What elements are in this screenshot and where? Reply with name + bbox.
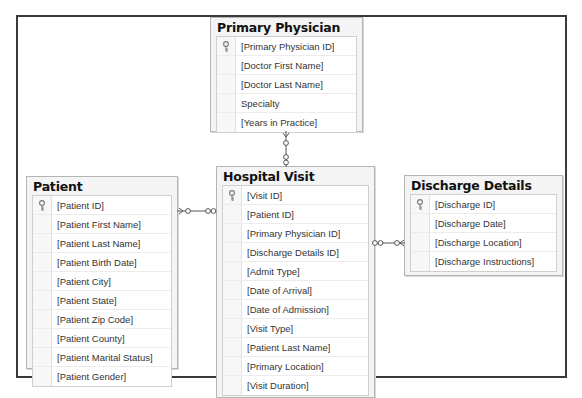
column-name: [Patient Last Name]: [242, 342, 330, 353]
column-list: [Discharge ID][Discharge Date][Discharge…: [410, 194, 557, 272]
table-column-row[interactable]: [Primary Physician ID]: [217, 37, 356, 56]
column-list: [Primary Physician ID][Doctor First Name…: [216, 36, 357, 133]
table-column-row[interactable]: [Discharge Date]: [411, 214, 556, 233]
column-name: [Visit ID]: [242, 190, 282, 201]
table-column-row[interactable]: [Discharge ID]: [411, 195, 556, 214]
primary-key-icon: [228, 190, 236, 201]
row-selector[interactable]: [411, 233, 430, 251]
table-column-row[interactable]: [Discharge Location]: [411, 233, 556, 252]
column-name: [Patient County]: [52, 333, 125, 344]
row-selector[interactable]: [33, 310, 52, 328]
row-selector[interactable]: [223, 319, 242, 337]
table-title: Primary Physician: [216, 21, 357, 36]
primary-key-icon: [416, 199, 424, 210]
row-selector[interactable]: [217, 37, 236, 55]
row-selector[interactable]: [33, 329, 52, 347]
relationship-physician-visit[interactable]: [280, 131, 292, 169]
table-column-row[interactable]: Specialty: [217, 94, 356, 113]
table-column-row[interactable]: [Primary Location]: [223, 357, 368, 376]
row-selector[interactable]: [33, 367, 52, 386]
table-column-row[interactable]: [Doctor Last Name]: [217, 75, 356, 94]
column-list: [Visit ID][Patient ID][Primary Physician…: [222, 185, 369, 396]
table-column-row[interactable]: [Patient Zip Code]: [33, 310, 171, 329]
table-discharge-details[interactable]: Discharge Details [Discharge ID][Dischar…: [404, 175, 563, 276]
column-name: [Discharge ID]: [430, 199, 495, 210]
column-name: [Date of Admission]: [242, 304, 329, 315]
table-column-row[interactable]: [Visit ID]: [223, 186, 368, 205]
table-column-row[interactable]: [Date of Arrival]: [223, 281, 368, 300]
column-name: [Visit Type]: [242, 323, 293, 334]
column-name: [Patient Last Name]: [52, 238, 140, 249]
row-selector[interactable]: [33, 291, 52, 309]
table-column-row[interactable]: [Patient ID]: [33, 196, 171, 215]
table-patient[interactable]: Patient [Patient ID][Patient First Name]…: [26, 176, 178, 369]
table-column-row[interactable]: [Visit Type]: [223, 319, 368, 338]
column-name: [Doctor Last Name]: [236, 79, 323, 90]
row-selector[interactable]: [223, 224, 242, 242]
table-column-row[interactable]: [Patient City]: [33, 272, 171, 291]
column-name: [Discharge Date]: [430, 218, 506, 229]
row-selector[interactable]: [33, 272, 52, 290]
row-selector[interactable]: [33, 253, 52, 271]
row-selector[interactable]: [223, 186, 242, 204]
row-selector[interactable]: [217, 56, 236, 74]
row-selector[interactable]: [223, 205, 242, 223]
relationship-patient-visit[interactable]: [177, 205, 217, 217]
table-title: Discharge Details: [410, 179, 557, 194]
row-selector[interactable]: [33, 234, 52, 252]
row-selector[interactable]: [223, 357, 242, 375]
row-selector[interactable]: [223, 262, 242, 280]
row-selector[interactable]: [33, 215, 52, 233]
row-selector[interactable]: [223, 243, 242, 261]
table-column-row[interactable]: [Years in Practice]: [217, 113, 356, 132]
primary-key-icon: [222, 41, 230, 52]
column-list: [Patient ID][Patient First Name][Patient…: [32, 195, 172, 387]
table-title: Hospital Visit: [222, 170, 369, 185]
table-primary-physician[interactable]: Primary Physician [Primary Physician ID]…: [210, 17, 363, 132]
relationship-discharge-visit[interactable]: [372, 237, 406, 249]
table-column-row[interactable]: [Patient ID]: [223, 205, 368, 224]
column-name: [Discharge Details ID]: [242, 247, 339, 258]
column-name: [Patient Birth Date]: [52, 257, 137, 268]
column-name: [Admit Type]: [242, 266, 300, 277]
table-column-row[interactable]: [Visit Duration]: [223, 376, 368, 395]
table-column-row[interactable]: [Patient Last Name]: [33, 234, 171, 253]
column-name: [Patient ID]: [52, 200, 104, 211]
table-column-row[interactable]: [Doctor First Name]: [217, 56, 356, 75]
column-name: [Visit Duration]: [242, 380, 309, 391]
column-name: [Patient ID]: [242, 209, 294, 220]
row-selector[interactable]: [33, 348, 52, 366]
table-column-row[interactable]: [Patient Last Name]: [223, 338, 368, 357]
column-name: [Doctor First Name]: [236, 60, 323, 71]
table-column-row[interactable]: [Discharge Details ID]: [223, 243, 368, 262]
table-hospital-visit[interactable]: Hospital Visit [Visit ID][Patient ID][Pr…: [216, 166, 375, 398]
row-selector[interactable]: [223, 338, 242, 356]
table-column-row[interactable]: [Discharge Instructions]: [411, 252, 556, 271]
row-selector[interactable]: [217, 94, 236, 112]
column-name: [Discharge Instructions]: [430, 256, 534, 267]
column-name: [Discharge Location]: [430, 237, 522, 248]
table-column-row[interactable]: [Patient Birth Date]: [33, 253, 171, 272]
row-selector[interactable]: [223, 281, 242, 299]
table-column-row[interactable]: [Patient Gender]: [33, 367, 171, 386]
table-column-row[interactable]: [Admit Type]: [223, 262, 368, 281]
table-column-row[interactable]: [Patient State]: [33, 291, 171, 310]
column-name: [Patient First Name]: [52, 219, 141, 230]
row-selector[interactable]: [411, 195, 430, 213]
table-title: Patient: [32, 180, 172, 195]
row-selector[interactable]: [33, 196, 52, 214]
row-selector[interactable]: [411, 252, 430, 271]
table-column-row[interactable]: [Primary Physician ID]: [223, 224, 368, 243]
column-name: [Primary Location]: [242, 361, 324, 372]
column-name: [Patient State]: [52, 295, 117, 306]
row-selector[interactable]: [223, 300, 242, 318]
table-column-row[interactable]: [Date of Admission]: [223, 300, 368, 319]
column-name: [Years in Practice]: [236, 117, 317, 128]
table-column-row[interactable]: [Patient Marital Status]: [33, 348, 171, 367]
row-selector[interactable]: [217, 75, 236, 93]
table-column-row[interactable]: [Patient County]: [33, 329, 171, 348]
row-selector[interactable]: [411, 214, 430, 232]
table-column-row[interactable]: [Patient First Name]: [33, 215, 171, 234]
row-selector[interactable]: [223, 376, 242, 395]
row-selector[interactable]: [217, 113, 236, 132]
